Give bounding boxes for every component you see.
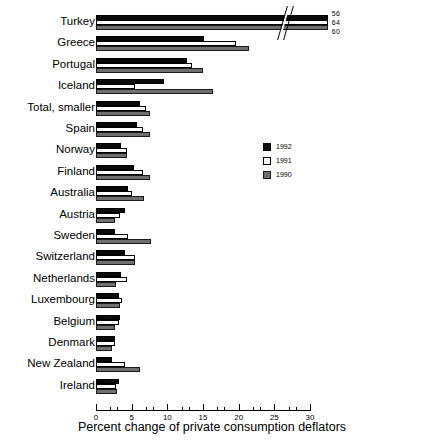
- bar-1990: [96, 132, 150, 137]
- x-axis-title: Percent change of private consumption de…: [0, 420, 424, 435]
- bar-1990: [96, 389, 117, 394]
- chart-row: Denmark: [0, 335, 424, 357]
- chart-row: Belgium: [0, 314, 424, 336]
- bar-group: [96, 293, 122, 308]
- x-tick-major: [274, 404, 275, 411]
- legend-swatch-1991: [263, 157, 271, 165]
- category-label: Switzerland: [0, 250, 95, 263]
- bar-group: [96, 379, 119, 394]
- bar-1990: [96, 367, 140, 372]
- bar-group: [96, 272, 127, 287]
- chart-row: Netherlands: [0, 271, 424, 293]
- category-label: New Zealand: [0, 357, 95, 370]
- bar-1990: [96, 46, 249, 51]
- chart-row: Sweden: [0, 228, 424, 250]
- x-tick-minor: [110, 407, 111, 411]
- chart-row: Greece: [0, 35, 424, 57]
- legend-label-1991: 1991: [276, 157, 292, 165]
- bar-1990: [96, 303, 120, 308]
- bar-group: [96, 15, 328, 30]
- bar-group: [96, 357, 140, 372]
- chart-row: Spain: [0, 121, 424, 143]
- bar-1990: [96, 346, 112, 351]
- bar-1990: [96, 111, 150, 116]
- bar-1990: [96, 218, 115, 223]
- bar-group: [96, 336, 115, 351]
- chart-row: Ireland: [0, 378, 424, 400]
- x-tick-minor: [224, 407, 225, 411]
- chart-row: Finland: [0, 164, 424, 186]
- chart-row: Portugal: [0, 57, 424, 79]
- category-label: Spain: [0, 122, 95, 135]
- x-tick-minor: [146, 407, 147, 411]
- category-label: Denmark: [0, 336, 95, 349]
- bar-group: [96, 79, 213, 94]
- x-tick-major: [203, 404, 204, 411]
- x-tick-major: [239, 404, 240, 411]
- bar-group: [96, 250, 135, 265]
- category-label: Belgium: [0, 315, 95, 328]
- legend-label-1990: 1990: [276, 171, 292, 179]
- x-tick-minor: [189, 407, 190, 411]
- category-label: Sweden: [0, 229, 95, 242]
- bar-group: [96, 208, 125, 223]
- chart-row: Norway: [0, 142, 424, 164]
- x-tick-minor: [153, 407, 154, 411]
- bar-value-label-1990: 60: [332, 28, 340, 35]
- x-axis: 051015202530: [0, 404, 424, 416]
- bar-1990: [96, 282, 116, 287]
- category-label: Greece: [0, 36, 95, 49]
- legend-item-1992: 1992: [263, 141, 292, 152]
- bar-1990: [96, 239, 151, 244]
- category-label: Luxembourg: [0, 293, 95, 306]
- x-tick-minor: [182, 407, 183, 411]
- category-label: Austria: [0, 208, 95, 221]
- x-tick-minor: [260, 407, 261, 411]
- bar-group: [96, 122, 150, 137]
- bar-1990: [96, 89, 213, 94]
- legend-label-1992: 1992: [276, 143, 292, 151]
- bar-chart: Turkey566460GreecePortugalIcelandTotal, …: [0, 0, 424, 441]
- chart-row: Turkey566460: [0, 14, 424, 36]
- chart-row: Austria: [0, 207, 424, 229]
- category-label: Portugal: [0, 58, 95, 71]
- bar-1990: [96, 196, 144, 201]
- bar-value-label-1992: 56: [332, 10, 340, 17]
- x-tick-major: [96, 404, 97, 411]
- x-tick-minor: [289, 407, 290, 411]
- chart-row: New Zealand: [0, 356, 424, 378]
- x-tick-major: [310, 404, 311, 411]
- legend-item-1991: 1991: [263, 155, 292, 166]
- bar-group: [96, 58, 203, 73]
- category-label: Turkey: [0, 15, 95, 28]
- bar-group: [96, 165, 150, 180]
- bar-group: [96, 186, 144, 201]
- category-label: Norway: [0, 143, 95, 156]
- legend-swatch-1992: [263, 143, 271, 151]
- bar-1990: [96, 175, 150, 180]
- category-label: Netherlands: [0, 272, 95, 285]
- x-tick-minor: [117, 407, 118, 411]
- category-label: Finland: [0, 165, 95, 178]
- bar-group: [96, 36, 249, 51]
- chart-row: Australia: [0, 185, 424, 207]
- bar-group: [96, 143, 127, 158]
- bar-group: [96, 229, 151, 244]
- x-tick-minor: [217, 407, 218, 411]
- x-tick-minor: [253, 407, 254, 411]
- x-tick-major: [167, 404, 168, 411]
- chart-row: Iceland: [0, 78, 424, 100]
- x-tick-major: [132, 404, 133, 411]
- legend-swatch-1990: [263, 171, 271, 179]
- category-label: Iceland: [0, 79, 95, 92]
- chart-row: Luxembourg: [0, 292, 424, 314]
- chart-row: Total, smaller: [0, 100, 424, 122]
- bar-group: [96, 315, 120, 330]
- bar-value-label-1991: 64: [332, 19, 340, 26]
- category-label: Total, smaller: [0, 101, 95, 114]
- x-tick-minor: [296, 407, 297, 411]
- category-label: Ireland: [0, 379, 95, 392]
- legend-item-1990: 1990: [263, 169, 292, 180]
- bar-1990: [96, 325, 115, 330]
- bar-group: [96, 101, 150, 116]
